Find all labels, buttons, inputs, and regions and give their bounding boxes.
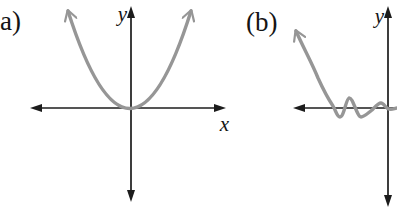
panel-b-oscillating-curve bbox=[296, 31, 397, 117]
two-panel-graph-figure: (a) y x (b) y bbox=[0, 0, 397, 217]
panel-a-label: (a) bbox=[0, 6, 21, 36]
panel-b-y-axis-label: y bbox=[373, 4, 385, 28]
panel-a-parabola-curve bbox=[68, 11, 191, 109]
panel-a: (a) y x bbox=[0, 2, 230, 199]
panel-b: (b) y bbox=[246, 4, 397, 204]
panel-a-y-axis-label: y bbox=[116, 2, 128, 26]
figure-svg: (a) y x (b) y bbox=[0, 0, 397, 217]
panel-a-x-axis-label: x bbox=[219, 112, 230, 136]
panel-b-label: (b) bbox=[246, 7, 277, 37]
